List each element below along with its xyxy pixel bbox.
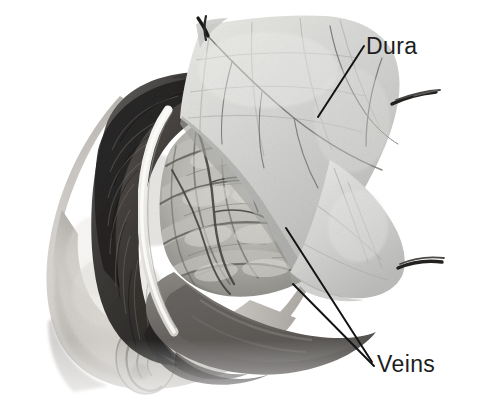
label-dura: Dura <box>366 35 417 58</box>
surgical-figure: Dura Veins <box>0 0 478 419</box>
label-veins: Veins <box>377 353 435 376</box>
